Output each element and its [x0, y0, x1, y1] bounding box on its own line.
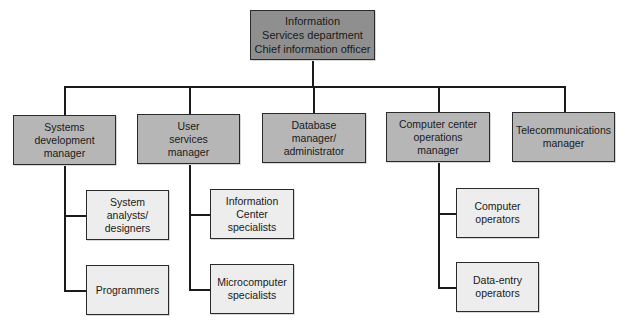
box-database-manager: Database manager/ administrator	[262, 113, 366, 163]
box-computer-operators: Computer operators	[456, 188, 539, 238]
systems-trunk	[64, 164, 66, 291]
manager-bus-line	[64, 86, 565, 88]
box-information-center-specialists: Information Center specialists	[210, 189, 294, 239]
connector-database	[313, 86, 315, 113]
label: Data-entry operators	[473, 274, 522, 300]
box-system-analysts: System analysts/ designers	[86, 190, 169, 240]
label: Programmers	[96, 284, 160, 297]
box-user-services-manager: User services manager	[137, 114, 240, 164]
computer-center-trunk	[438, 161, 440, 288]
label: System analysts/ designers	[105, 196, 151, 235]
connector-systems	[64, 86, 66, 115]
root-box-cio: Information Services department Chief in…	[250, 10, 375, 60]
systems-branch-1	[64, 215, 86, 217]
box-systems-development-manager: Systems development manager	[13, 115, 116, 165]
label: Computer operators	[474, 200, 520, 226]
connector-user-services	[189, 86, 191, 114]
box-computer-center-manager: Computer center operations manager	[386, 112, 490, 162]
box-data-entry-operators: Data-entry operators	[456, 262, 539, 312]
user-services-branch-1	[189, 214, 210, 216]
root-connector	[312, 60, 314, 87]
user-services-branch-2	[189, 289, 210, 291]
computer-center-branch-1	[438, 213, 456, 215]
connector-computer-center	[438, 86, 440, 112]
computer-center-branch-2	[438, 287, 456, 289]
box-telecommunications-manager: Telecommunications manager	[512, 112, 615, 162]
label: User services manager	[168, 120, 209, 159]
label: Computer center operations manager	[399, 118, 477, 157]
root-label: Information Services department Chief in…	[255, 14, 371, 56]
box-programmers: Programmers	[86, 265, 169, 315]
label: Microcomputer specialists	[217, 276, 286, 302]
label: Systems development manager	[34, 121, 94, 160]
label: Telecommunications manager	[516, 124, 611, 150]
systems-branch-2	[64, 290, 86, 292]
label: Information Center specialists	[226, 195, 279, 234]
user-services-trunk	[189, 163, 191, 290]
box-microcomputer-specialists: Microcomputer specialists	[210, 264, 294, 314]
connector-telecom	[564, 86, 566, 112]
label: Database manager/ administrator	[284, 119, 345, 158]
